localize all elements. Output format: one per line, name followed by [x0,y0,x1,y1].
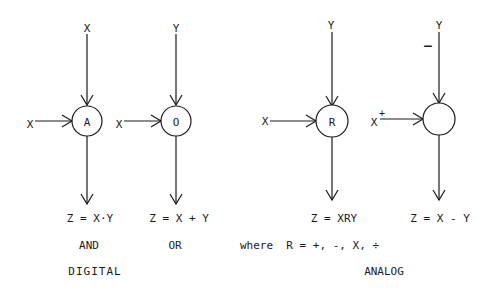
and-formula: Z = X·Y [67,213,113,224]
subtract-left-input-label: X [371,117,378,128]
subtract-minus-sign: – [424,39,432,52]
digital-group-label: DIGITAL [68,266,121,277]
or-caption: OR [168,240,181,251]
subtract-formula: Z = X - Y [410,213,470,224]
and-node [35,34,102,204]
or-circle-label: O [173,117,180,128]
general-formula: Z = XRY [311,213,357,224]
subtract-top-input-label: Y [436,20,443,31]
or-formula: Z = X + Y [149,213,209,224]
general-left-input-label: X [262,116,269,127]
general-circle-label: R [329,117,336,128]
and-caption: AND [79,240,99,251]
or-node [124,34,191,204]
or-top-input-label: Y [173,23,180,34]
and-left-input-label: X [27,119,34,130]
and-circle-label: A [84,117,91,128]
and-top-input-label: X [84,23,91,34]
analog-operator-note: where R = +, -, X, ÷ [240,240,379,251]
general-analog-node [270,32,348,200]
analog-group-label: ANALOG [364,266,404,277]
general-top-input-label: Y [328,20,335,31]
subtract-node [380,32,455,200]
subtract-plus-sign: + [379,109,385,119]
or-left-input-label: X [116,119,123,130]
